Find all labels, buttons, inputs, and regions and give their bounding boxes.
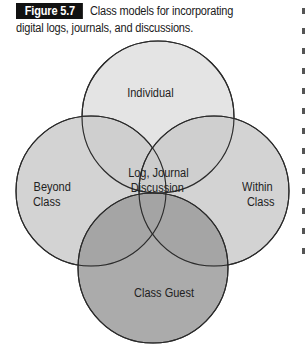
label-center-1: Log, Journal — [128, 166, 189, 181]
adjacent-page-edge — [301, 0, 305, 357]
label-beyond-class-2: Class — [33, 195, 61, 210]
label-individual: Individual — [127, 86, 173, 101]
label-class-guest: Class Guest — [134, 286, 194, 301]
circle-class-guest — [78, 193, 228, 343]
label-within-class-2: Class — [247, 195, 275, 210]
label-within-class-1: Within — [242, 180, 273, 195]
label-center-2: Discussion — [131, 181, 184, 196]
label-beyond-class-1: Beyond — [34, 180, 71, 195]
